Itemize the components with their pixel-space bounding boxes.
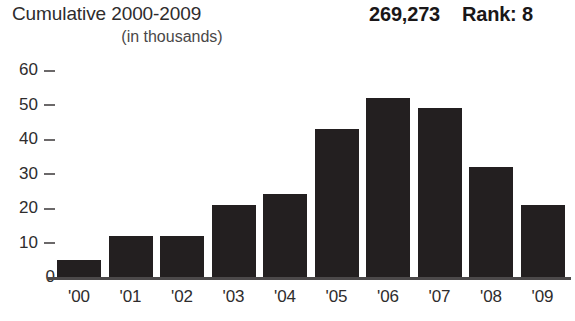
bar-chart-plot: 0102030405060 '00'01'02'03'04'05'06'07'0… (0, 56, 575, 321)
x-axis-tick-label: '04 (262, 287, 308, 307)
bar (212, 205, 256, 277)
x-axis-tick-label: '06 (365, 287, 411, 307)
cumulative-total-value: 269,273 (330, 2, 440, 26)
chart-subtitle: (in thousands) (12, 26, 302, 48)
bars-layer (0, 56, 575, 321)
x-axis-tick-label: '05 (314, 287, 360, 307)
bar (109, 236, 153, 277)
chart-title: Cumulative 2000-2009 (12, 2, 302, 26)
bar (366, 98, 410, 277)
bar (315, 129, 359, 277)
x-axis-tick-label: '08 (468, 287, 514, 307)
bar (160, 236, 204, 277)
rank-badge: Rank: 8 (462, 2, 562, 26)
title-block: Cumulative 2000-2009 (in thousands) (12, 2, 302, 48)
x-axis-baseline (47, 277, 571, 280)
x-axis-tick-label: '07 (417, 287, 463, 307)
bar (469, 167, 513, 277)
x-axis-tick-label: '00 (56, 287, 102, 307)
x-axis-tick-label: '02 (159, 287, 205, 307)
chart-header: Cumulative 2000-2009 (in thousands) 269,… (0, 0, 575, 56)
bar (57, 260, 101, 277)
x-axis-tick-label: '09 (520, 287, 566, 307)
x-axis-tick-label: '01 (108, 287, 154, 307)
x-axis-tick-label: '03 (211, 287, 257, 307)
bar (418, 108, 462, 277)
bar (263, 194, 307, 277)
bar (521, 205, 565, 277)
